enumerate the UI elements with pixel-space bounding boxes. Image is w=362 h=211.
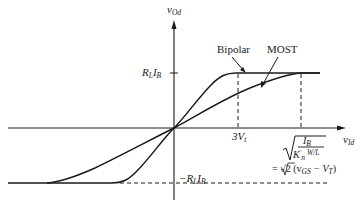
y-axis-arrow-icon (172, 20, 177, 29)
positive-saturation-label: RLIB (142, 67, 161, 80)
most-saturation-denominator: K′nW/L (293, 149, 319, 162)
most-label: MOST (267, 44, 298, 55)
most-saturation-numerator: IB (303, 136, 311, 148)
x-axis-arrow-icon (337, 126, 346, 131)
bipolar-label: Bipolar (217, 44, 250, 55)
most-saturation-equivalent: = √2 (vGS − VT) (272, 164, 336, 176)
x-axis-label: vId (343, 134, 354, 147)
y-axis-label: vOd (167, 4, 181, 17)
bipolar-saturation-x-label: 3Vt (232, 131, 246, 144)
negative-saturation-label: −RLIB (179, 173, 206, 186)
